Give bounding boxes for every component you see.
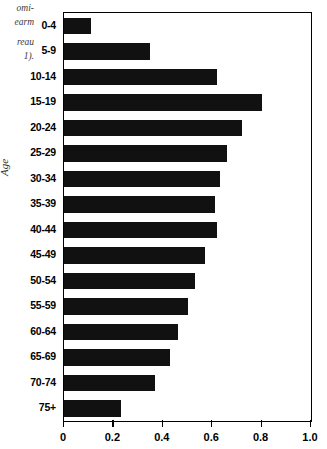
- x-axis: 00.20.40.60.81.0: [63, 420, 312, 449]
- y-tick-label-0-4: 0-4: [0, 19, 56, 31]
- bar-row: [64, 375, 311, 392]
- bar-40-44: [64, 222, 217, 239]
- y-tick-label-15-19: 15-19: [0, 95, 56, 107]
- bar-row: [64, 222, 311, 239]
- x-tick-label-0.6: 0.6: [204, 431, 219, 443]
- bar-25-29: [64, 145, 227, 162]
- bar-row: [64, 273, 311, 290]
- x-tick-mark: [162, 420, 163, 427]
- x-tick-label-0: 0: [60, 431, 66, 443]
- bar-row: [64, 145, 311, 162]
- bar-55-59: [64, 298, 188, 315]
- y-tick-label-70-74: 70-74: [0, 376, 56, 388]
- bar-70-74: [64, 375, 155, 392]
- x-tick-label-1.0: 1.0: [302, 431, 317, 443]
- bar-45-49: [64, 247, 205, 264]
- y-tick-label-5-9: 5-9: [0, 44, 56, 56]
- bar-15-19: [64, 94, 262, 111]
- bar-row: [64, 120, 311, 137]
- bar-35-39: [64, 196, 215, 213]
- x-tick-mark: [211, 420, 212, 427]
- bar-10-14: [64, 69, 217, 86]
- x-tick-mark: [261, 420, 262, 427]
- y-tick-label-20-24: 20-24: [0, 121, 56, 133]
- y-tick-label-50-54: 50-54: [0, 274, 56, 286]
- bar-row: [64, 247, 311, 264]
- y-tick-label-45-49: 45-49: [0, 248, 56, 260]
- bar-75+: [64, 400, 121, 417]
- x-tick-mark: [63, 420, 64, 427]
- bar-row: [64, 349, 311, 366]
- bar-65-69: [64, 349, 170, 366]
- bar-row: [64, 324, 311, 341]
- bar-row: [64, 69, 311, 86]
- y-tick-label-10-14: 10-14: [0, 70, 56, 82]
- y-axis-tick-labels: 0-45-910-1415-1920-2425-2930-3435-3940-4…: [0, 12, 59, 420]
- bar-30-34: [64, 171, 220, 188]
- y-tick-label-75+: 75+: [0, 401, 56, 413]
- x-tick-mark: [112, 420, 113, 427]
- bar-row: [64, 400, 311, 417]
- plot-area: [63, 12, 312, 422]
- bar-row: [64, 196, 311, 213]
- bar-row: [64, 298, 311, 315]
- bar-0-4: [64, 18, 91, 35]
- bar-series: [64, 13, 311, 421]
- bar-row: [64, 18, 311, 35]
- bar-row: [64, 43, 311, 60]
- bar-row: [64, 94, 311, 111]
- x-tick-label-0.8: 0.8: [253, 431, 268, 443]
- x-tick-mark: [310, 420, 311, 427]
- y-tick-label-60-64: 60-64: [0, 325, 56, 337]
- bar-row: [64, 171, 311, 188]
- bar-20-24: [64, 120, 242, 137]
- bar-60-64: [64, 324, 178, 341]
- bar-50-54: [64, 273, 195, 290]
- y-tick-label-30-34: 30-34: [0, 172, 56, 184]
- y-tick-label-25-29: 25-29: [0, 146, 56, 158]
- x-tick-label-0.2: 0.2: [105, 431, 120, 443]
- y-tick-label-40-44: 40-44: [0, 223, 56, 235]
- y-tick-label-35-39: 35-39: [0, 197, 56, 209]
- bar-5-9: [64, 43, 150, 60]
- y-tick-label-65-69: 65-69: [0, 350, 56, 362]
- y-tick-label-55-59: 55-59: [0, 299, 56, 311]
- x-tick-label-0.4: 0.4: [154, 431, 169, 443]
